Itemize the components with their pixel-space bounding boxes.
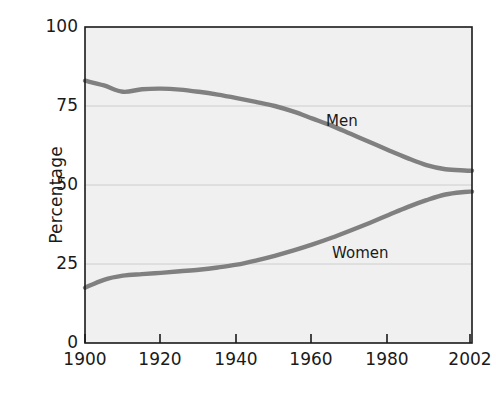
series-label-men: Men — [326, 112, 358, 130]
line-chart: Percentage 1007550250 190019201940196019… — [0, 0, 496, 406]
series-label-women: Women — [332, 244, 388, 262]
plot-area — [0, 0, 496, 406]
